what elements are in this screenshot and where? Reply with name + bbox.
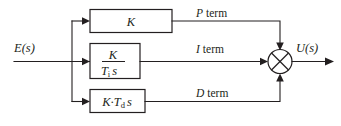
arrowhead-proportional-input	[82, 17, 90, 25]
p-term-path	[172, 21, 284, 51]
arrowhead-output	[325, 57, 334, 65]
i-term-letter: I	[195, 43, 201, 55]
d-term-label: Dterm	[195, 87, 228, 99]
integral-denominator-tail: s	[112, 64, 117, 78]
diagram-canvas: K K Tis K·Tds	[0, 0, 341, 126]
i-term-label: Iterm	[195, 43, 224, 55]
p-term-label: Pterm	[195, 7, 227, 19]
proportional-block: K	[90, 10, 172, 33]
arrowhead-i-term	[260, 58, 268, 66]
derivative-gain-subscript: d	[121, 100, 126, 110]
p-term-letter: P	[195, 7, 203, 19]
derivative-block: K·Tds	[90, 90, 145, 113]
arrowhead-derivative-input	[82, 98, 90, 106]
arrowhead-d-term	[276, 74, 284, 82]
arrowhead-integral-input	[82, 58, 90, 66]
i-term-word: term	[203, 43, 224, 55]
integral-numerator-label: K	[108, 48, 118, 62]
output-signal-label: U(s)	[296, 41, 318, 55]
input-signal-label: E(s)	[13, 41, 35, 55]
derivative-gain-tail: s	[127, 95, 132, 109]
integral-block: K Tis	[90, 44, 140, 80]
output-signal-wire	[292, 57, 334, 65]
d-term-word: term	[207, 87, 228, 99]
p-term-wire	[172, 21, 280, 45]
derivative-block-label: K·Tds	[101, 95, 132, 111]
i-term-path	[140, 58, 268, 66]
derivative-gain: K·T	[101, 95, 121, 109]
p-term-word: term	[206, 7, 227, 19]
block-diagram: K K Tis K·Tds	[0, 0, 341, 126]
proportional-block-label: K	[126, 15, 136, 29]
summing-junction	[268, 50, 292, 74]
d-term-letter: D	[195, 87, 205, 99]
